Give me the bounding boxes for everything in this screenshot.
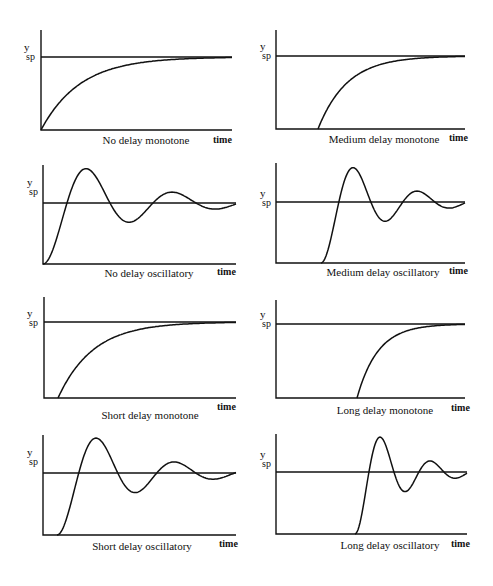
- time-axis-label: time: [217, 266, 236, 277]
- panel-long-delay-monotone: yspLong delay monotonetime: [260, 300, 470, 416]
- axes: [276, 300, 465, 398]
- panel-title: No delay monotone: [103, 134, 190, 146]
- axes: [276, 434, 467, 534]
- panel-title: Long delay monotone: [337, 404, 434, 416]
- ysp-label: ysp: [260, 308, 271, 329]
- axes: [276, 163, 465, 263]
- axes: [41, 30, 232, 130]
- panel-title: Medium delay monotone: [329, 133, 440, 145]
- ysp-label: ysp: [27, 446, 38, 467]
- time-axis-label: time: [213, 134, 232, 145]
- panel-short-delay-oscillatory: yspShort delay oscillatorytime: [27, 435, 238, 552]
- ysp-label: ysp: [260, 40, 271, 61]
- time-axis-label: time: [449, 265, 468, 276]
- ysp-label: ysp: [27, 176, 38, 197]
- ysp-label: ysp: [260, 448, 271, 469]
- ysp-label: ysp: [260, 187, 271, 208]
- response-curve: [43, 169, 236, 264]
- time-axis-label: time: [449, 132, 468, 143]
- panel-title: Short delay monotone: [101, 409, 198, 421]
- response-curve: [321, 168, 465, 263]
- step-response-figure: yspNo delay monotonetimeyspMedium delay …: [0, 0, 493, 586]
- panel-title: Long delay oscillatory: [341, 539, 440, 551]
- response-curve: [41, 58, 232, 131]
- time-axis-label: time: [451, 402, 470, 413]
- panel-title: Medium delay oscillatory: [326, 266, 440, 278]
- panel-long-delay-oscillatory: yspLong delay oscillatorytime: [260, 434, 470, 551]
- axes: [276, 30, 465, 129]
- axes: [43, 435, 236, 535]
- response-curve: [58, 323, 236, 399]
- response-curve: [57, 438, 236, 535]
- panel-medium-delay-oscillatory: yspMedium delay oscillatorytime: [260, 163, 468, 278]
- panel-title: No delay oscillatory: [104, 267, 194, 279]
- axes: [44, 297, 236, 398]
- panel-medium-delay-monotone: yspMedium delay monotonetime: [260, 30, 468, 145]
- ysp-label: ysp: [24, 41, 35, 62]
- panel-no-delay-monotone: yspNo delay monotonetime: [24, 30, 232, 146]
- panel-title: Short delay oscillatory: [92, 540, 192, 552]
- time-axis-label: time: [451, 538, 470, 549]
- time-axis-label: time: [217, 401, 236, 412]
- response-curve: [355, 437, 467, 534]
- panel-short-delay-monotone: yspShort delay monotonetime: [27, 297, 236, 421]
- response-curve: [318, 57, 465, 130]
- panel-no-delay-oscillatory: yspNo delay oscillatorytime: [27, 165, 236, 279]
- time-axis-label: time: [219, 538, 238, 549]
- response-curve: [357, 324, 465, 398]
- ysp-label: ysp: [27, 307, 38, 328]
- axes: [43, 165, 236, 264]
